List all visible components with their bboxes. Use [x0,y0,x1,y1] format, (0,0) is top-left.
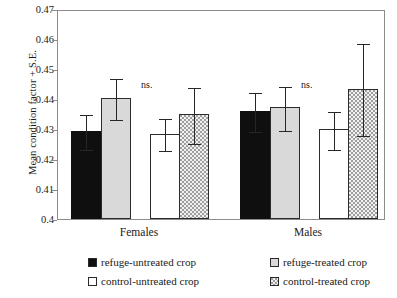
legend-item: control-untreated crop [88,276,199,287]
y-axis-tick-label: 0.42 [8,155,54,165]
x-axis-group-label: Females [89,226,189,238]
y-axis-title: Mean condition factor + S.E. [27,23,38,203]
y-axis-tick-label: 0.43 [8,125,54,135]
y-axis-tick-label: 0.44 [8,95,54,105]
error-bar-stem [194,88,195,145]
legend-row: refuge-untreated croprefuge-treated crop [88,257,388,276]
y-axis-tick-label: 0.41 [8,185,54,195]
error-bar-cap-bottom [249,132,262,133]
y-axis-tick-mark [52,220,57,221]
y-axis-tick-label: 0.46 [8,35,54,45]
significance-annotation: ns. [301,79,312,90]
legend-label: refuge-treated crop [283,257,367,268]
bar-chart-figure: Mean condition factor + S.E. 0.470.460.4… [0,0,397,298]
error-bar [71,115,101,151]
legend-swatch [88,277,97,286]
error-bar-cap-bottom [279,131,292,132]
legend-row: control-untreated cropcontrol-treated cr… [88,276,388,295]
legend-swatch [270,258,279,267]
error-bar [319,112,349,151]
legend-label: refuge-untreated crop [101,257,196,268]
legend-swatch [88,258,97,267]
x-axis-group-label: Males [258,226,358,238]
y-axis-tick-label: 0.47 [8,5,54,15]
error-bar-cap-bottom [328,150,341,151]
legend-item: refuge-untreated crop [88,257,196,268]
error-bar-stem [363,44,364,137]
error-bar [179,88,209,145]
error-bar-stem [285,87,286,132]
y-axis-tick-label: 0.4 [8,215,54,225]
error-bar-stem [255,93,256,133]
error-bar [240,93,270,133]
error-bar-stem [165,119,166,152]
plot-area: ns.ns. [57,10,385,220]
error-bar-cap-bottom [80,150,93,151]
legend-item: refuge-treated crop [270,257,367,268]
legend-label: control-treated crop [283,276,370,287]
error-bar-cap-bottom [159,151,172,152]
error-bar-stem [86,115,87,151]
error-bar-stem [116,79,117,121]
legend-item: control-treated crop [270,276,370,287]
y-axis-tick-label: 0.45 [8,65,54,75]
error-bar-cap-bottom [188,144,201,145]
error-bar-stem [334,112,335,151]
error-bar [101,79,131,121]
error-bar [150,119,180,152]
significance-annotation: ns. [141,79,152,90]
error-bar [348,44,378,137]
legend-swatch [270,277,279,286]
legend-label: control-untreated crop [101,276,199,287]
error-bar [270,87,300,132]
chart-legend: refuge-untreated croprefuge-treated crop… [88,257,388,295]
error-bar-cap-bottom [357,136,370,137]
error-bar-cap-bottom [110,120,123,121]
